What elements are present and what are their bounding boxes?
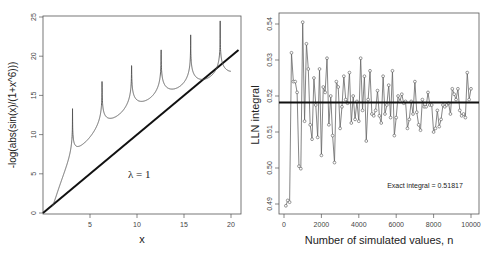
right-y-label: LLN integral (249, 85, 261, 144)
data-point (449, 113, 452, 116)
data-point (342, 75, 345, 78)
data-point (436, 109, 439, 112)
data-point (453, 93, 456, 96)
y-tick-label: 25 (30, 13, 37, 21)
data-point (331, 134, 334, 137)
data-point (432, 131, 435, 134)
x-tick-label: 20 (227, 221, 235, 228)
lln-series-line (286, 22, 471, 206)
left-x-axis: 5101520 (88, 214, 235, 228)
data-point (427, 91, 430, 94)
data-point (335, 80, 338, 83)
data-point (363, 75, 366, 78)
x-tick-label: 10 (133, 221, 141, 228)
data-point (380, 122, 383, 125)
data-point (430, 104, 433, 107)
data-point (385, 104, 388, 107)
x-tick-label: 0 (282, 221, 286, 228)
data-point (359, 57, 362, 60)
x-tick-label: 4000 (351, 221, 367, 228)
data-point (341, 105, 344, 108)
lambda-annotation: λ = 1 (128, 168, 151, 180)
data-point (400, 93, 403, 96)
data-point (382, 75, 385, 78)
data-point (440, 118, 443, 121)
x-tick-label: 5 (88, 221, 92, 228)
figure: 0510152025 5101520 λ = 1 x -log(abs(sin(… (0, 0, 487, 253)
x-tick-label: 8000 (426, 221, 442, 228)
data-point (288, 201, 291, 204)
data-point (376, 89, 379, 92)
data-point (421, 98, 424, 101)
data-point (333, 161, 336, 164)
data-point (470, 87, 473, 90)
data-point (301, 21, 304, 24)
data-point (311, 138, 314, 141)
data-point (458, 109, 461, 112)
data-point (389, 116, 392, 119)
data-point (374, 109, 377, 112)
data-point (354, 118, 357, 121)
left-y-label: -log(abs(sin(x)/(1+x^6))) (7, 62, 18, 169)
data-point (384, 113, 387, 116)
y-tick-label: 0 (30, 211, 37, 215)
data-point (417, 123, 420, 126)
x-tick-label: 6000 (388, 221, 404, 228)
x-tick-label: 2000 (314, 221, 330, 228)
data-point (309, 123, 312, 126)
data-point (294, 80, 297, 83)
data-point (468, 98, 471, 101)
y-tick-label: 0.51 (266, 125, 273, 139)
data-point (350, 122, 353, 125)
data-point (408, 118, 411, 121)
data-point (419, 129, 422, 132)
data-point (372, 114, 375, 117)
data-point (451, 87, 454, 90)
y-tick-label: 0.53 (266, 53, 273, 67)
data-point (397, 95, 400, 98)
y-tick-label: 20 (30, 52, 37, 60)
data-point (337, 86, 340, 89)
data-point (378, 114, 381, 117)
data-point (320, 154, 323, 157)
data-point (316, 136, 319, 139)
data-point (313, 77, 316, 80)
data-point (455, 98, 458, 101)
data-point (307, 68, 310, 71)
data-point (406, 127, 409, 130)
data-point (393, 134, 396, 137)
y-tick-label: 0.50 (266, 161, 273, 175)
data-point (415, 111, 418, 114)
data-point (348, 71, 351, 74)
data-point (339, 127, 342, 130)
data-point (434, 127, 437, 130)
data-point (290, 51, 293, 54)
data-point (387, 84, 390, 87)
data-point (329, 95, 332, 98)
data-point (425, 105, 428, 108)
data-point (326, 57, 329, 60)
data-point (299, 167, 302, 170)
data-point (391, 69, 394, 72)
data-point (369, 69, 372, 72)
y-tick-label: 0.49 (266, 197, 273, 211)
data-point (298, 165, 301, 168)
y-tick-label: 0.54 (266, 17, 273, 31)
data-point (466, 71, 469, 74)
x-tick-label: 15 (180, 221, 188, 228)
data-point (438, 125, 441, 128)
y-tick-label: 5 (30, 172, 37, 176)
data-point (305, 42, 308, 45)
right-x-label: Number of simulated values, n (305, 234, 454, 246)
right-y-axis: 0.490.500.510.520.530.54 (266, 17, 279, 211)
left-y-axis: 0510152025 (30, 13, 43, 215)
data-point (322, 86, 325, 89)
right-chart: 0.490.500.510.520.530.54 020004000600080… (249, 13, 481, 246)
data-point (367, 98, 370, 101)
left-chart: 0510152025 5101520 λ = 1 x -log(abs(sin(… (7, 13, 241, 245)
data-point (361, 109, 364, 112)
data-point (327, 123, 330, 126)
data-point (464, 116, 467, 119)
data-point (365, 140, 368, 143)
right-x-axis: 0200040006000800010000 (282, 214, 481, 228)
